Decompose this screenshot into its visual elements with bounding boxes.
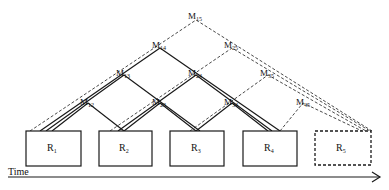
label-m15: M15 <box>188 11 202 22</box>
edge-m25 <box>110 48 370 131</box>
label-m25: M25 <box>224 40 238 51</box>
edge-m24 <box>118 75 272 131</box>
merge-diagram: M15 M14 M25 M13 M24 M35 M12 M23 M34 M45 … <box>0 0 389 190</box>
label-m35: M35 <box>260 68 274 79</box>
merge-labels: M15 M14 M25 M13 M24 M35 M12 M23 M34 M45 <box>80 11 310 108</box>
label-m24: M24 <box>188 68 202 79</box>
edge-m35 <box>190 75 366 131</box>
label-m45: M45 <box>296 97 310 108</box>
solid-merge-lines <box>40 48 280 131</box>
time-axis: Time <box>8 166 380 182</box>
time-axis-label: Time <box>8 166 29 177</box>
label-m34: M34 <box>224 97 238 108</box>
edge-m14 <box>40 48 280 131</box>
round-boxes: R1 R2 R3 R4 R5 <box>26 131 371 166</box>
